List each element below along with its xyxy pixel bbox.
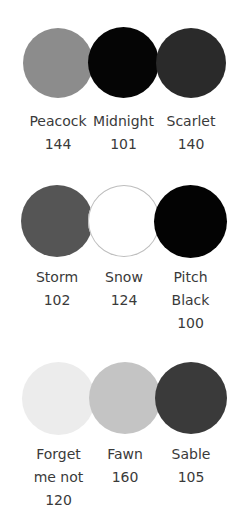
color-swatch-storm xyxy=(21,185,93,257)
swatch-label-line: Sable xyxy=(151,443,231,466)
color-swatch-pitch-black xyxy=(154,185,227,258)
color-swatch-peacock xyxy=(23,28,93,98)
color-swatch-snow xyxy=(88,185,160,257)
swatch-label-line: Black xyxy=(151,289,231,312)
swatch-label-line: 100 xyxy=(151,312,231,335)
swatch-label: Sable105 xyxy=(151,443,231,489)
color-swatch-forget-me-not xyxy=(22,362,95,435)
swatch-label-line: Pitch xyxy=(151,266,231,289)
color-swatch-midnight xyxy=(88,27,159,98)
swatch-label: Scarlet140 xyxy=(151,110,231,156)
color-swatch-fawn xyxy=(89,362,161,434)
swatch-label-line: 120 xyxy=(19,489,99,512)
swatch-label-line: Scarlet xyxy=(151,110,231,133)
color-swatch-scarlet xyxy=(156,28,226,98)
swatch-label: PitchBlack100 xyxy=(151,266,231,335)
color-swatch-sable xyxy=(155,362,227,434)
swatch-label-line: 140 xyxy=(151,133,231,156)
swatch-label-line: 105 xyxy=(151,466,231,489)
